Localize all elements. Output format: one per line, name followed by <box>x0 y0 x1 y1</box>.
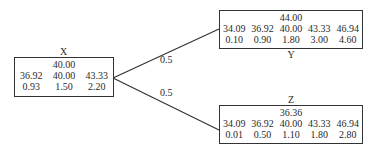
node-z-value: 36.92 <box>251 118 274 129</box>
node-z-mean-row: 36.36 <box>220 107 362 118</box>
node-y-mean-row: 44.00 <box>220 12 362 23</box>
node-z-value: 34.09 <box>223 118 246 129</box>
node-z-prob: 2.80 <box>339 129 357 140</box>
node-y: 44.00 34.09 36.92 40.00 43.33 46.94 0.10… <box>219 10 363 49</box>
edge-x-to-y-label: 0.5 <box>160 54 173 65</box>
node-z-value: 40.00 <box>280 118 303 129</box>
node-y-title: Y <box>219 49 363 60</box>
node-x-value: 43.33 <box>85 70 108 81</box>
node-y-prob: 0.90 <box>254 34 272 45</box>
node-x-value: 40.00 <box>53 70 76 81</box>
node-x-prob: 0.93 <box>23 81 41 92</box>
node-z-mean: 36.36 <box>280 107 303 118</box>
node-y-value: 43.33 <box>308 23 331 34</box>
node-x-mean: 40.00 <box>53 59 76 70</box>
node-z-prob: 1.80 <box>311 129 329 140</box>
node-y-prob: 4.60 <box>339 34 357 45</box>
node-y-value: 36.92 <box>251 23 274 34</box>
node-y-value: 34.09 <box>223 23 246 34</box>
node-y-prob: 3.00 <box>311 34 329 45</box>
node-z-prob: 0.01 <box>225 129 243 140</box>
edge-x-to-z <box>113 78 219 130</box>
node-x-prob: 2.20 <box>88 81 106 92</box>
node-x-probs-row: 0.93 1.50 2.20 <box>15 81 113 92</box>
node-z-probs-row: 0.01 0.50 1.10 1.80 2.80 <box>220 129 362 140</box>
node-z-value: 43.33 <box>308 118 331 129</box>
node-y-prob: 1.80 <box>282 34 300 45</box>
node-z-title: Z <box>219 94 363 105</box>
node-x-value: 36.92 <box>20 70 43 81</box>
node-z-prob: 0.50 <box>254 129 272 140</box>
node-z-value: 46.94 <box>337 118 360 129</box>
node-y-value: 40.00 <box>280 23 303 34</box>
node-x: 40.00 36.92 40.00 43.33 0.93 1.50 2.20 <box>14 57 114 97</box>
node-y-value: 46.94 <box>337 23 360 34</box>
node-x-values-row: 36.92 40.00 43.33 <box>15 70 113 81</box>
node-z: 36.36 34.09 36.92 40.00 43.33 46.94 0.01… <box>219 105 363 144</box>
node-y-values-row: 34.09 36.92 40.00 43.33 46.94 <box>220 23 362 34</box>
edge-x-to-z-label: 0.5 <box>160 87 173 98</box>
node-x-title: X <box>14 46 113 57</box>
node-z-values-row: 34.09 36.92 40.00 43.33 46.94 <box>220 118 362 129</box>
node-x-mean-row: 40.00 <box>15 59 113 70</box>
node-y-prob: 0.10 <box>225 34 243 45</box>
node-y-probs-row: 0.10 0.90 1.80 3.00 4.60 <box>220 34 362 45</box>
node-z-prob: 1.10 <box>282 129 300 140</box>
node-x-prob: 1.50 <box>55 81 73 92</box>
node-y-mean: 44.00 <box>280 12 303 23</box>
